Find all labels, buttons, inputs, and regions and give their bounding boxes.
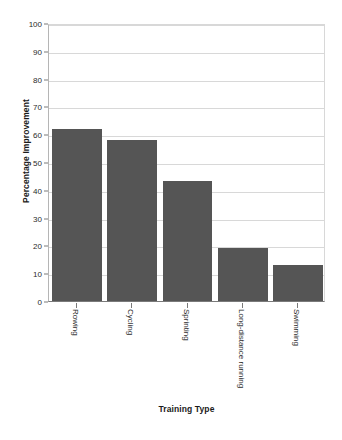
plot-area: [48, 24, 325, 302]
x-axis-title: Training Type: [48, 404, 325, 414]
y-tick-label: 20: [2, 242, 42, 251]
y-tick-label: 10: [2, 270, 42, 279]
bar[interactable]: [273, 265, 323, 301]
y-tick-label: 40: [2, 186, 42, 195]
x-tick-mark: [187, 303, 188, 308]
x-tick-label: Cycling: [126, 309, 135, 335]
x-tick-mark: [297, 303, 298, 308]
y-tick-label: 70: [2, 103, 42, 112]
y-tick-label: 90: [2, 47, 42, 56]
x-tick-label: Swimming: [292, 309, 301, 346]
bar[interactable]: [52, 129, 102, 301]
x-tick-label: Sprinting: [182, 309, 191, 341]
x-tick-mark: [242, 303, 243, 308]
y-tick-label: 30: [2, 214, 42, 223]
x-tick-label: Rowing: [71, 309, 80, 336]
bar-chart: Percentage Improvement 01020304050607080…: [0, 0, 342, 440]
bar[interactable]: [218, 248, 268, 301]
y-tick-label: 50: [2, 159, 42, 168]
y-tick-label: 100: [2, 20, 42, 29]
y-tick-label: 80: [2, 75, 42, 84]
y-axis-title: Percentage Improvement: [14, 0, 38, 302]
x-tick-mark: [76, 303, 77, 308]
x-tick-label: Long-distance running: [237, 309, 246, 388]
gridline: [49, 81, 324, 82]
gridline: [49, 108, 324, 109]
bar[interactable]: [163, 181, 213, 301]
gridline: [49, 25, 324, 26]
y-tick-label: 0: [2, 298, 42, 307]
x-tick-mark: [131, 303, 132, 308]
y-tick-label: 60: [2, 131, 42, 140]
gridline: [49, 53, 324, 54]
bar[interactable]: [107, 140, 157, 301]
